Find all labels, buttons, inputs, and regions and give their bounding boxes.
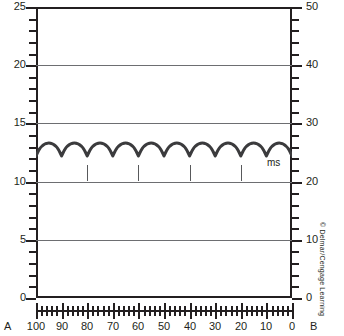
y-tick-right-32 (292, 112, 299, 114)
x-tick-32 (210, 306, 212, 316)
y-tick-right-28 (292, 135, 299, 137)
y-tick-left-13 (29, 147, 36, 149)
waveform-path (36, 143, 292, 156)
y-tick-left-23 (29, 30, 36, 32)
y-tick-left-1 (29, 286, 36, 288)
x-tick-62 (133, 306, 135, 316)
x-tick-40 (190, 303, 192, 319)
x-tick-22 (236, 306, 238, 316)
x-tick-54 (154, 306, 156, 316)
x-tick-50 (164, 303, 166, 319)
y-tick-right-0 (292, 298, 302, 300)
y-tick-left-8 (29, 205, 36, 207)
x-tick-66 (123, 306, 125, 316)
y-axis-label-right-40: 40 (306, 59, 332, 70)
x-tick-30 (215, 303, 217, 319)
x-tick-28 (220, 306, 222, 316)
y-tick-left-2 (29, 275, 36, 277)
pulse-waveform-trace (36, 7, 292, 298)
y-tick-left-11 (29, 170, 36, 172)
x-tick-96 (46, 306, 48, 316)
x-tick-2 (287, 306, 289, 316)
timing-mark-60 (138, 165, 139, 181)
y-tick-right-44 (292, 42, 299, 44)
y-tick-left-21 (29, 54, 36, 56)
ms-unit-label: ms (267, 158, 280, 168)
x-axis-label-0: 0 (277, 320, 307, 332)
x-tick-12 (261, 306, 263, 316)
x-tick-84 (77, 306, 79, 316)
x-tick-60 (138, 303, 140, 319)
y-tick-left-12 (29, 158, 36, 160)
x-tick-52 (159, 306, 161, 316)
x-tick-90 (62, 303, 64, 319)
y-axis-label-left-5: 5 (0, 234, 26, 245)
y-tick-left-17 (29, 100, 36, 102)
y-axis-label-left-10: 10 (0, 176, 26, 187)
y-tick-right-14 (292, 217, 299, 219)
y-tick-right-24 (292, 158, 299, 160)
x-tick-74 (103, 306, 105, 316)
y-tick-right-26 (292, 147, 299, 149)
y-tick-right-8 (292, 251, 299, 253)
y-tick-left-20 (26, 65, 36, 67)
x-tick-68 (118, 306, 120, 316)
y-tick-right-12 (292, 228, 299, 230)
x-tick-16 (251, 306, 253, 316)
x-tick-98 (41, 306, 43, 316)
y-tick-left-4 (29, 251, 36, 253)
x-tick-14 (256, 306, 258, 316)
y-axis-label-right-20: 20 (306, 176, 332, 187)
y-tick-left-22 (29, 42, 36, 44)
y-tick-left-3 (29, 263, 36, 265)
y-tick-right-2 (292, 286, 299, 288)
y-tick-left-0 (26, 298, 36, 300)
x-tick-10 (266, 303, 268, 319)
y-tick-right-38 (292, 77, 299, 79)
x-tick-78 (92, 306, 94, 316)
y-tick-left-15 (26, 123, 36, 125)
y-tick-left-6 (29, 228, 36, 230)
y-axis-label-left-25: 25 (0, 1, 26, 12)
x-tick-64 (128, 306, 130, 316)
timing-mark-20 (241, 165, 242, 181)
y-tick-left-25 (26, 7, 36, 9)
y-tick-left-16 (29, 112, 36, 114)
timing-mark-40 (190, 165, 191, 181)
y-tick-right-34 (292, 100, 299, 102)
x-tick-88 (67, 306, 69, 316)
x-tick-100 (36, 303, 38, 319)
y-tick-right-18 (292, 193, 299, 195)
x-tick-76 (97, 306, 99, 316)
x-tick-36 (200, 306, 202, 316)
x-tick-18 (246, 306, 248, 316)
x-tick-24 (231, 306, 233, 316)
panel-label-b: B (310, 320, 317, 332)
y-tick-right-50 (292, 7, 302, 9)
x-tick-8 (272, 306, 274, 316)
x-tick-48 (169, 306, 171, 316)
x-tick-44 (179, 306, 181, 316)
y-tick-left-7 (29, 217, 36, 219)
y-axis-label-left-15: 15 (0, 117, 26, 128)
x-tick-20 (241, 303, 243, 319)
x-tick-56 (149, 306, 151, 316)
x-tick-82 (82, 306, 84, 316)
y-axis-label-right-50: 50 (306, 1, 332, 12)
y-tick-right-46 (292, 30, 299, 32)
y-tick-left-24 (29, 19, 36, 21)
y-tick-right-10 (292, 240, 302, 242)
y-tick-right-22 (292, 170, 299, 172)
x-tick-26 (225, 306, 227, 316)
y-axis-label-left-20: 20 (0, 59, 26, 70)
x-tick-46 (174, 306, 176, 316)
timing-mark-80 (87, 165, 88, 181)
x-tick-72 (108, 306, 110, 316)
x-tick-38 (195, 306, 197, 316)
x-tick-6 (277, 306, 279, 316)
y-tick-left-5 (26, 240, 36, 242)
y-tick-right-42 (292, 54, 299, 56)
y-axis-label-right-30: 30 (306, 117, 332, 128)
y-tick-right-16 (292, 205, 299, 207)
y-tick-right-36 (292, 88, 299, 90)
